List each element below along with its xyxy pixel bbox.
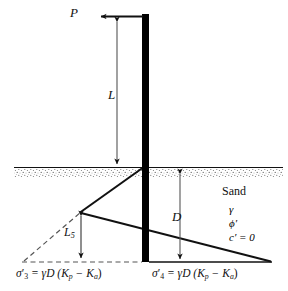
label-pressure-sigma3: σ′3 = γD (Kp − Ka) (16, 268, 102, 281)
label-L5-base: L (64, 225, 71, 239)
sigma4-minus: − K (212, 267, 230, 279)
property-unit-weight: γ (229, 202, 255, 216)
label-load-P: P (70, 6, 78, 19)
sigma3-equation: = γD (K (31, 267, 69, 279)
label-pressure-sigma4: σ′4 = γD (Kp − Ka) (152, 268, 238, 281)
sigma4-sub-p: p (205, 272, 209, 281)
property-cohesion: c′ = 0 (229, 230, 255, 244)
soil-properties-list: γ ϕ′ c′ = 0 (229, 202, 255, 244)
sigma4-subscript: 4 (160, 272, 164, 281)
label-soil-sand: Sand (222, 185, 246, 197)
sheet-pile-wall (142, 14, 149, 262)
sigma3-minus: − K (76, 267, 94, 279)
property-friction-angle: ϕ′ (229, 216, 255, 230)
label-L5-subscript: 5 (71, 231, 75, 240)
sigma3-subscript: 3 (24, 272, 28, 281)
label-length-L5: L5 (64, 226, 75, 240)
cantilever-sheet-pile-diagram: P L D L5 Sand γ ϕ′ c′ = 0 σ′3 = γD (Kp −… (0, 0, 288, 291)
sigma4-close: ) (234, 267, 238, 279)
label-depth-D: D (172, 210, 181, 223)
label-length-L: L (108, 88, 115, 101)
diagram-canvas (0, 0, 288, 291)
sigma4-equation: = γD (K (167, 267, 205, 279)
sigma3-close: ) (98, 267, 102, 279)
sigma3-sub-p: p (69, 272, 73, 281)
